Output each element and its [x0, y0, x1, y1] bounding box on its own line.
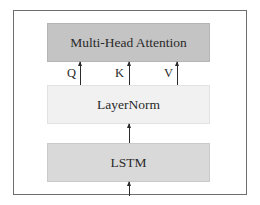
v-label: V — [164, 66, 173, 80]
q-arrow-icon — [80, 62, 81, 85]
k-label: K — [115, 66, 124, 80]
k-arrow-icon — [129, 62, 130, 85]
layernorm-block: LayerNorm — [47, 85, 210, 124]
layernorm-label: LayerNorm — [97, 97, 160, 113]
v-arrow-icon — [177, 62, 178, 85]
diagram-canvas: Multi-Head Attention Q K V LayerNorm LST… — [0, 0, 260, 205]
input-to-lstm-arrow-icon — [129, 182, 130, 196]
lstm-block: LSTM — [47, 143, 210, 182]
lstm-to-layernorm-arrow-icon — [129, 124, 130, 143]
multi-head-attention-label: Multi-Head Attention — [70, 35, 187, 51]
multi-head-attention-block: Multi-Head Attention — [47, 23, 210, 62]
lstm-label: LSTM — [110, 155, 146, 171]
q-label: Q — [67, 66, 76, 80]
